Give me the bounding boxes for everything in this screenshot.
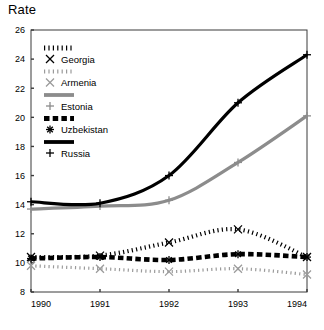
rate-line-chart: Rate 81012141618202224261990199119921993… — [0, 0, 324, 330]
legend-label-georgia: Georgia — [61, 54, 96, 65]
series-uzbekistan — [27, 250, 311, 264]
y-tick-label: 24 — [15, 54, 25, 64]
plot-area: 810121416182022242619901991199219931994G… — [0, 0, 324, 330]
legend-label-estonia: Estonia — [61, 101, 93, 112]
legend-label-armenia: Armenia — [61, 77, 97, 88]
y-tick-label: 16 — [15, 171, 25, 181]
y-tick-label: 26 — [15, 25, 25, 35]
x-tick-label: 1993 — [228, 299, 248, 309]
series-line-armenia — [31, 266, 307, 275]
x-tick-label: 1990 — [31, 299, 51, 309]
y-tick-label: 20 — [15, 113, 25, 123]
x-tick-label: 1991 — [90, 299, 110, 309]
y-tick-label: 12 — [15, 229, 25, 239]
y-tick-label: 14 — [15, 200, 25, 210]
x-tick-label: 1992 — [159, 299, 179, 309]
y-tick-label: 10 — [15, 258, 25, 268]
plot-frame — [31, 30, 307, 292]
y-tick-label: 22 — [15, 84, 25, 94]
x-tick-label: 1994 — [287, 299, 307, 309]
legend-label-uzbekistan: Uzbekistan — [61, 124, 108, 135]
series-armenia — [27, 262, 311, 279]
legend: GeorgiaArmeniaEstoniaUzbekistanRussia — [44, 48, 108, 159]
y-tick-label: 18 — [15, 142, 25, 152]
legend-label-russia: Russia — [61, 148, 91, 159]
y-tick-label: 8 — [20, 287, 25, 297]
